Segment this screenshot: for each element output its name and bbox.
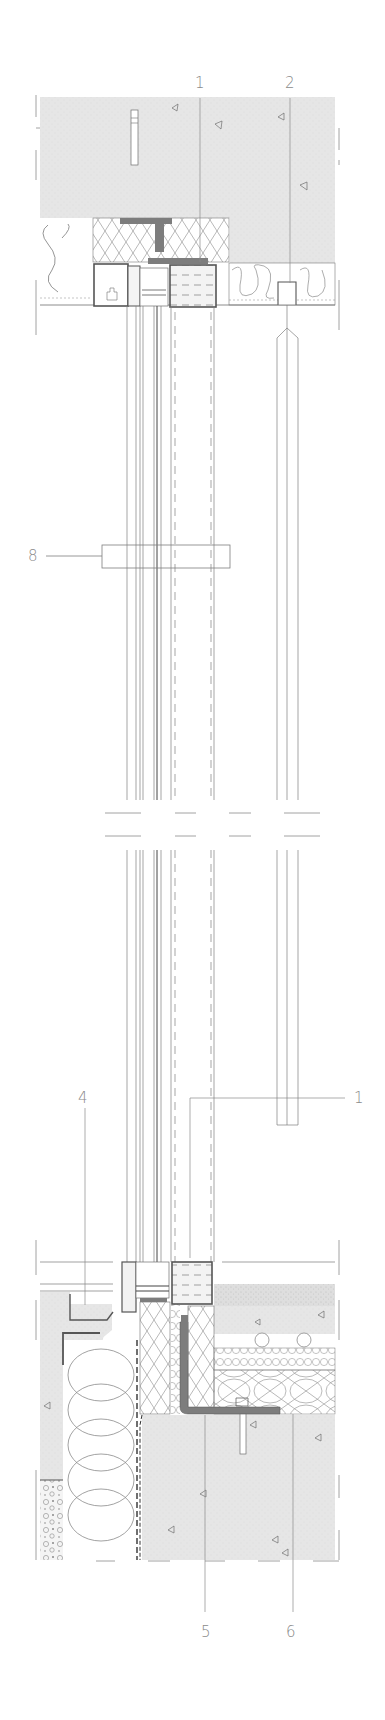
glazing-mullion-lines <box>127 306 214 1262</box>
callout-label-8: 8 <box>28 549 38 564</box>
callout-label-1-bottom: 1 <box>354 1091 364 1106</box>
break-lines <box>105 813 320 836</box>
callout-label-6: 6 <box>286 1625 296 1640</box>
callout-label-5: 5 <box>201 1625 211 1640</box>
shade-rod <box>277 305 298 1125</box>
section-drawing <box>0 0 385 1720</box>
callout-label-1-top: 1 <box>195 76 205 91</box>
callout-8-box <box>46 545 230 568</box>
callout-label-2-top: 2 <box>285 76 295 91</box>
head-frame <box>94 264 216 307</box>
callout-label-4: 4 <box>78 1091 88 1106</box>
